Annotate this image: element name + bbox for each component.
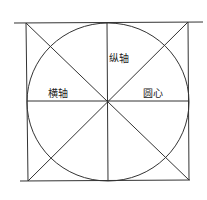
horizontal-axis-label: 横轴 xyxy=(48,88,68,99)
center-label: 圆心 xyxy=(143,88,163,99)
diagram-canvas xyxy=(0,0,207,200)
vertical-axis-label: 纵轴 xyxy=(109,53,129,64)
